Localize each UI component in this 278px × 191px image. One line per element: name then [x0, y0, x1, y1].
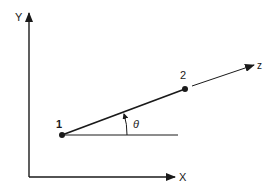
- point-1-label: 1: [56, 118, 62, 130]
- angle-arc: [124, 114, 127, 135]
- segment-1-2: [62, 89, 185, 135]
- z-direction-arrow: [192, 65, 254, 86]
- z-label: z: [257, 60, 262, 71]
- point-2: [182, 86, 188, 92]
- point-2-label: 2: [180, 69, 186, 81]
- angle-label: θ: [133, 118, 139, 130]
- diagram-canvas: Y X z θ 1 2: [0, 0, 278, 191]
- point-1: [59, 132, 65, 138]
- x-axis-label: X: [179, 171, 187, 183]
- y-axis-label: Y: [15, 11, 23, 23]
